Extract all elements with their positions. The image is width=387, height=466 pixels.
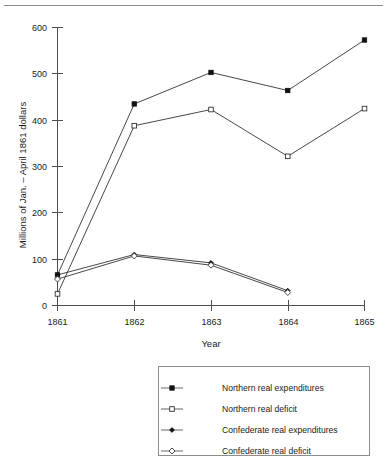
- x-tick-1862: 1862: [124, 317, 144, 327]
- y-tick-200: 200: [32, 208, 47, 218]
- chart-figure: Millions of Jan. – April 1861 dollars 60…: [0, 0, 387, 466]
- data-point: [209, 107, 214, 112]
- data-point: [55, 292, 60, 297]
- y-tick-400: 400: [32, 116, 47, 126]
- data-point: [285, 154, 290, 159]
- data-point: [132, 102, 136, 106]
- y-tick-100: 100: [32, 255, 47, 265]
- y-tick-600: 600: [32, 23, 47, 33]
- x-tick-1864: 1864: [278, 317, 298, 327]
- data-point: [362, 38, 366, 42]
- chart-legend: Northern real expendituresNorthern real …: [159, 367, 370, 457]
- legend-label: Confederate real deficit: [222, 446, 311, 456]
- legend-label: Northern real expenditures: [222, 383, 324, 393]
- series-line: [58, 40, 365, 275]
- data-point: [286, 88, 290, 92]
- series-line: [58, 255, 288, 291]
- y-tick-0: 0: [42, 301, 47, 311]
- legend-label: Confederate real expenditures: [222, 425, 338, 435]
- series-line: [58, 256, 288, 293]
- legend-marker-open-square-icon: [170, 407, 175, 412]
- y-axis-title: Millions of Jan. – April 1861 dollars: [17, 102, 28, 249]
- y-tick-300: 300: [32, 162, 47, 172]
- data-point: [362, 106, 367, 111]
- legend-marker-filled-square-icon: [170, 386, 174, 390]
- x-tick-1863: 1863: [201, 317, 221, 327]
- x-tick-1865: 1865: [354, 317, 374, 327]
- series-3: [55, 253, 291, 296]
- data-point: [132, 123, 137, 128]
- data-point: [209, 70, 213, 74]
- x-axis-title: Year: [201, 338, 220, 349]
- header-divider: [4, 5, 383, 6]
- x-axis: 1861 1862 1863 1864 1865 Year: [47, 300, 374, 349]
- series-2: [55, 252, 290, 293]
- plot-area: [55, 38, 367, 296]
- y-tick-500: 500: [32, 69, 47, 79]
- series-0: [55, 38, 366, 277]
- x-tick-1861: 1861: [47, 317, 67, 327]
- legend-label: Northern real deficit: [222, 404, 298, 414]
- y-axis: 600 500 400 300 200 100 0: [32, 23, 63, 311]
- line-chart: Millions of Jan. – April 1861 dollars 60…: [0, 0, 387, 466]
